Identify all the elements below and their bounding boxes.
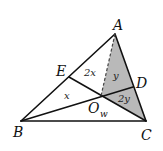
- geometry-diagram: A B C D E O w 2x y 2y x: [0, 0, 163, 151]
- area-label-aod: y: [112, 70, 119, 81]
- label-b: B: [12, 124, 23, 140]
- segment-ab: [21, 34, 115, 121]
- area-label-eoa: 2x: [83, 67, 96, 78]
- area-label-boe: x: [64, 90, 70, 101]
- label-e: E: [55, 63, 66, 79]
- label-o: O: [88, 100, 100, 116]
- label-a: A: [111, 17, 123, 33]
- label-d: D: [135, 75, 147, 91]
- label-o-subscript: w: [100, 109, 108, 119]
- area-label-doc: 2y: [117, 93, 130, 104]
- label-c: C: [141, 127, 152, 143]
